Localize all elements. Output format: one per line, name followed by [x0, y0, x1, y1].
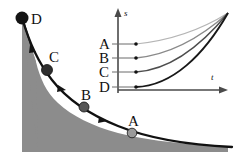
- point-C-marker: [42, 65, 53, 76]
- point-A-label: A: [128, 113, 139, 129]
- inset-start-dot-B: [134, 56, 138, 60]
- point-B-label: B: [81, 87, 91, 103]
- shaded-region: [22, 18, 228, 152]
- inset-x-axis-label: t: [211, 72, 214, 82]
- point-B-marker: [79, 102, 89, 112]
- inset-label-C: C: [99, 64, 109, 80]
- inset-graph: s t A B C D: [99, 8, 228, 95]
- figure-container: D C B A s t: [0, 0, 247, 161]
- diagram-svg: D C B A s t: [0, 0, 247, 161]
- point-A-marker: [127, 128, 137, 138]
- point-D-label: D: [31, 11, 42, 27]
- inset-x-axis-arrowhead: [219, 87, 228, 94]
- inset-start-dot-D: [134, 85, 138, 89]
- inset-start-dot-A: [134, 42, 138, 46]
- inset-start-dot-C: [134, 70, 138, 74]
- inset-label-D: D: [99, 79, 110, 95]
- arrow-marker-2: [57, 85, 66, 92]
- inset-y-axis-arrowhead: [115, 8, 122, 17]
- inset-y-axis-label: s: [124, 8, 128, 18]
- point-D-marker: [16, 12, 29, 25]
- point-C-label: C: [49, 49, 59, 65]
